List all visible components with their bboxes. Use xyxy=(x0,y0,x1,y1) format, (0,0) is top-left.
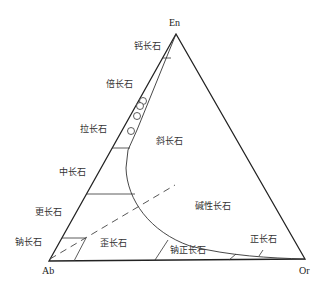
field-oligoclase: 更长石 xyxy=(35,208,62,217)
corner-ab-label: Ab xyxy=(42,266,54,276)
field-orthoclase: 正长石 xyxy=(250,235,277,244)
plagioclase-boundary-line xyxy=(126,34,305,259)
data-point xyxy=(137,103,144,110)
divider-anorthoclase-sodic-orthoclase xyxy=(155,240,168,260)
field-bytownite: 倍长石 xyxy=(106,80,133,89)
field-labradorite: 拉长石 xyxy=(80,125,107,134)
field-alkali-feldspar: 碱性长石 xyxy=(195,202,231,211)
field-albite: 钠长石 xyxy=(15,238,42,247)
orthoclase-tick xyxy=(259,250,263,256)
field-anorthoclase: 歪长石 xyxy=(100,239,127,248)
corner-or-label: Or xyxy=(299,266,310,276)
field-anorthite: 钙长石 xyxy=(134,42,161,51)
triangle-outline xyxy=(49,34,305,261)
corner-en-label: En xyxy=(169,18,180,28)
field-plagioclase: 斜长石 xyxy=(156,137,183,146)
data-point xyxy=(134,113,141,120)
data-point xyxy=(128,128,135,135)
field-andesine: 中长石 xyxy=(59,168,86,177)
field-sodic-orthoclase: 钠正长石 xyxy=(170,246,206,255)
